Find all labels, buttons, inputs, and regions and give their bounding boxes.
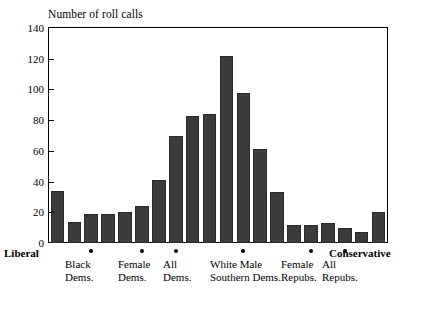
y-tick-mark: [48, 59, 54, 60]
y-tick-mark: [48, 89, 54, 90]
bars-layer: [49, 28, 387, 243]
x-group-marker-dot: [140, 249, 144, 253]
bar: [304, 225, 318, 243]
y-tick-mark: [48, 151, 54, 152]
bar: [152, 180, 166, 243]
bar: [270, 192, 284, 243]
x-group-marker-dot: [309, 249, 313, 253]
bar: [68, 222, 82, 244]
x-group-label: Female Dems.: [118, 258, 150, 283]
bar: [338, 228, 352, 243]
x-group-label: White Male Southern Dems.: [210, 258, 281, 283]
x-group-marker-dot: [174, 249, 178, 253]
y-tick-mark: [48, 120, 54, 121]
y-tick-label: 80: [4, 114, 48, 126]
bar: [287, 225, 301, 243]
y-tick-label: 60: [4, 145, 48, 157]
axis-label-liberal: Liberal: [4, 247, 39, 259]
chart-container: Number of roll calls 020406080100120140 …: [0, 0, 422, 312]
y-tick-label: 140: [4, 22, 48, 34]
axis-label-conservative: Conservative: [329, 247, 391, 259]
x-group-label: Female Repubs.: [281, 258, 317, 283]
y-tick-label: 20: [4, 206, 48, 218]
bar: [372, 212, 386, 243]
y-tick-mark: [48, 182, 54, 183]
bar: [118, 212, 132, 243]
bar: [253, 149, 267, 243]
bar: [186, 116, 200, 243]
x-group-marker-dot: [89, 249, 93, 253]
y-tick-label: 100: [4, 83, 48, 95]
bar: [321, 223, 335, 243]
bar: [84, 214, 98, 243]
bar: [135, 206, 149, 243]
y-tick-label: 120: [4, 53, 48, 65]
bar: [203, 114, 217, 243]
x-group-marker-dot: [241, 249, 245, 253]
x-group-label: Black Dems.: [65, 258, 93, 283]
bar: [169, 136, 183, 244]
x-group-label: All Dems.: [163, 258, 191, 283]
bar: [237, 93, 251, 244]
y-axis-ticks: 020406080100120140: [0, 0, 48, 312]
y-axis-title: Number of roll calls: [48, 8, 143, 20]
x-group-label: All Repubs.: [322, 258, 358, 283]
bar: [101, 214, 115, 243]
bar: [220, 56, 234, 243]
y-tick-mark: [48, 212, 54, 213]
y-tick-label: 40: [4, 176, 48, 188]
bar: [51, 191, 65, 243]
bar: [355, 232, 369, 243]
